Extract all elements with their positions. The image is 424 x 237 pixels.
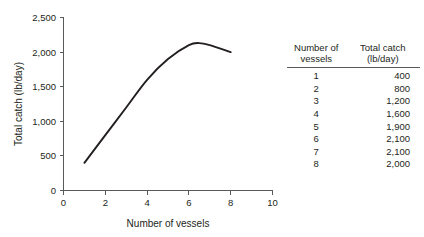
y-tick-label-2000: 2,000 <box>32 47 56 58</box>
table-cell-vessels: 8 <box>287 158 345 171</box>
x-tick-label-2: 2 <box>103 197 108 208</box>
table-cell-catch: 1,900 <box>345 121 420 134</box>
table-body: 1400280031,20041,60051,90062,10072,10082… <box>287 68 420 171</box>
y-tick-label-2500: 2,500 <box>32 12 56 23</box>
table-cell-vessels: 7 <box>287 146 345 159</box>
table-cell-vessels: 4 <box>287 108 345 121</box>
catch-curve <box>84 43 230 163</box>
y-tick-label-1500: 1,500 <box>32 81 56 92</box>
catch-data-table: Number of vessels Total catch (lb/day) 1… <box>287 42 420 171</box>
x-axis-ticks <box>64 191 273 196</box>
table-cell-catch: 1,600 <box>345 108 420 121</box>
table-cell-catch: 1,200 <box>345 95 420 108</box>
x-tick-label-8: 8 <box>228 197 233 208</box>
table-header-catch-line2: (lb/day) <box>347 53 418 64</box>
y-tick-label-500: 500 <box>40 150 56 161</box>
table-row: 2800 <box>287 83 420 96</box>
chart-svg: 2,500 2,000 1,500 1,000 500 0 0 2 4 6 8 … <box>0 0 285 237</box>
y-axis-ticks <box>60 18 64 191</box>
table-header-row: Number of vessels Total catch (lb/day) <box>287 42 420 65</box>
table-header-vessels-line2: vessels <box>289 53 343 64</box>
table-row: 1400 <box>287 68 420 83</box>
table-header-vessels: Number of vessels <box>287 42 345 65</box>
x-tick-label-4: 4 <box>144 197 149 208</box>
table-cell-catch: 2,000 <box>345 158 420 171</box>
table-row: 31,200 <box>287 95 420 108</box>
table-cell-vessels: 5 <box>287 121 345 134</box>
table-row: 72,100 <box>287 146 420 159</box>
table-cell-vessels: 6 <box>287 133 345 146</box>
x-tick-label-6: 6 <box>186 197 191 208</box>
table-cell-vessels: 1 <box>287 68 345 83</box>
x-axis-title: Number of vessels <box>127 218 210 229</box>
y-tick-label-0: 0 <box>51 185 56 196</box>
table-header-vessels-line1: Number of <box>289 42 343 53</box>
table-row: 82,000 <box>287 158 420 171</box>
x-tick-label-0: 0 <box>61 197 66 208</box>
x-tick-label-10: 10 <box>267 197 278 208</box>
table-header-catch: Total catch (lb/day) <box>345 42 420 65</box>
table-row: 41,600 <box>287 108 420 121</box>
table-header-catch-line1: Total catch <box>347 42 418 53</box>
table-row: 62,100 <box>287 133 420 146</box>
table-cell-vessels: 2 <box>287 83 345 96</box>
table-cell-catch: 2,100 <box>345 133 420 146</box>
table-cell-catch: 2,100 <box>345 146 420 159</box>
figure: 2,500 2,000 1,500 1,000 500 0 0 2 4 6 8 … <box>0 0 424 237</box>
y-tick-label-1000: 1,000 <box>32 116 56 127</box>
table-cell-catch: 800 <box>345 83 420 96</box>
y-axis-title: Total catch (lb/day) <box>13 62 24 146</box>
table-cell-vessels: 3 <box>287 95 345 108</box>
table-cell-catch: 400 <box>345 68 420 83</box>
chart-plot-area: 2,500 2,000 1,500 1,000 500 0 0 2 4 6 8 … <box>0 0 285 237</box>
table-row: 51,900 <box>287 121 420 134</box>
